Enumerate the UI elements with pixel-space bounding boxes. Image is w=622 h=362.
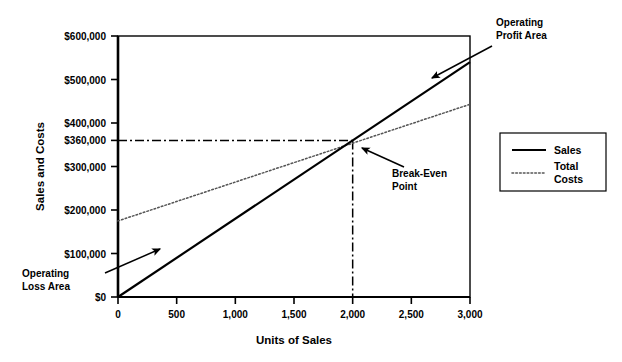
x-tick-label-1500: 1,500 (281, 309, 306, 320)
operating-profit-area-label-line-1: Operating (496, 17, 543, 28)
y-tick-label-0: $0 (95, 292, 107, 303)
operating-profit-area-label-line-2: Profit Area (496, 30, 547, 41)
break-even-point-arrow (362, 148, 404, 167)
y-tick-label-400000: $400,000 (64, 118, 106, 129)
annotation-operating-profit-area: Operating Profit Area (432, 17, 547, 78)
legend-label-sales: Sales (554, 144, 582, 156)
legend-label-total-costs-line-1: Total (554, 160, 578, 172)
y-axis-tick-labels: $600,000 $500,000 $400,000 $360,000 $300… (64, 31, 106, 303)
y-tick-label-600000: $600,000 (64, 31, 106, 42)
y-tick-label-200000: $200,000 (64, 205, 106, 216)
x-tick-label-1000: 1,000 (223, 309, 248, 320)
legend-box (500, 133, 606, 191)
annotation-break-even-point: Break-Even Point (362, 148, 447, 192)
series-sales (118, 62, 470, 297)
x-tick-label-500: 500 (168, 309, 185, 320)
plot-frame (118, 36, 470, 297)
break-even-point-label-line-2: Point (392, 181, 418, 192)
series-total-costs (118, 104, 470, 221)
operating-profit-area-arrow (432, 46, 492, 78)
x-axis-tick-labels: 0 500 1,000 1,500 2,000 2,500 3,000 (115, 309, 483, 320)
break-even-chart: $600,000 $500,000 $400,000 $360,000 $300… (0, 0, 622, 362)
legend-label-total-costs-line-2: Costs (554, 173, 583, 185)
y-tick-label-100000: $100,000 (64, 249, 106, 260)
operating-loss-area-label-line-2: Loss Area (22, 281, 70, 292)
x-tick-label-2000: 2,000 (340, 309, 365, 320)
chart-canvas: $600,000 $500,000 $400,000 $360,000 $300… (0, 0, 622, 362)
x-tick-label-0: 0 (115, 309, 121, 320)
y-axis-title: Sales and Costs (34, 122, 46, 211)
y-tick-label-360000: $360,000 (64, 135, 106, 146)
y-tick-label-500000: $500,000 (64, 75, 106, 86)
operating-loss-area-label-line-1: Operating (22, 268, 69, 279)
x-tick-label-3000: 3,000 (457, 309, 482, 320)
operating-loss-area-arrow (105, 249, 160, 273)
x-tick-label-2500: 2,500 (399, 309, 424, 320)
break-even-point-label-line-1: Break-Even (392, 168, 447, 179)
x-axis-title: Units of Sales (256, 334, 332, 346)
y-tick-label-300000: $300,000 (64, 162, 106, 173)
legend: Sales Total Costs (500, 133, 606, 191)
